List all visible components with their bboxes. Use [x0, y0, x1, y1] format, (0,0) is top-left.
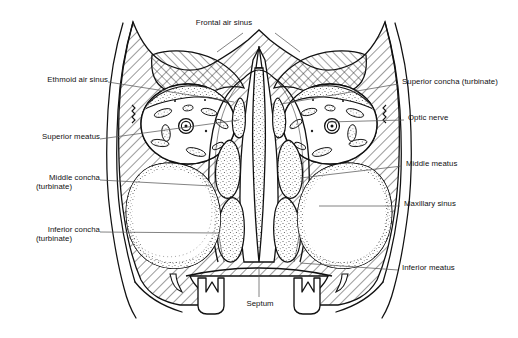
label-inferior-meatus: Inferior meatus: [402, 263, 455, 272]
label-inferior-concha-main: Inferior concha: [48, 225, 100, 234]
optic-nerve-left: [179, 119, 194, 134]
label-middle-concha-sub: (turbinate): [8, 182, 100, 191]
label-middle-concha-main: Middle concha: [49, 173, 100, 182]
nasal-septum: [253, 68, 266, 262]
label-ethmoid-air-sinus: Ethmoid air sinus: [8, 75, 108, 84]
molar-tooth-left: [198, 278, 224, 314]
label-superior-concha: Superior concha (turbinate): [402, 77, 498, 86]
label-inferior-concha: Inferior concha (turbinate): [8, 225, 100, 244]
label-maxillary-sinus: Maxillary sinus: [404, 199, 456, 208]
label-inferior-concha-sub: (turbinate): [8, 234, 100, 243]
label-septum: Septum: [225, 299, 295, 308]
label-frontal-air-sinus: Frontal air sinus: [164, 18, 284, 27]
anatomical-figure: Figure 1 The upper respiratory tract: [0, 0, 518, 338]
label-optic-nerve: Optic nerve: [408, 113, 448, 122]
coronal-section-illustration: [0, 0, 518, 338]
molar-tooth-right: [294, 278, 320, 314]
label-superior-meatus: Superior meatus: [8, 132, 100, 141]
label-middle-concha: Middle concha (turbinate): [8, 173, 100, 192]
optic-nerve-right: [325, 119, 340, 134]
label-middle-meatus: Middle meatus: [406, 159, 457, 168]
